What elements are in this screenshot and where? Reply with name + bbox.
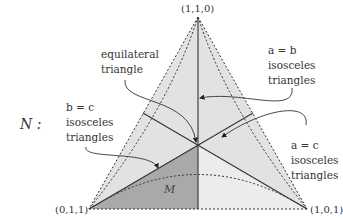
annotation-line: a = b: [268, 43, 316, 58]
set-label-n: N :: [20, 117, 41, 132]
annotation-line: isosceles: [268, 58, 316, 73]
annotation-line: a = c: [291, 138, 339, 153]
annotation-line: b = c: [66, 100, 114, 115]
region-label-m: M: [164, 182, 175, 197]
vertex-label-bottom-right: (1,0,1): [310, 202, 343, 217]
annotation-b-eq-c: b = c isosceles triangles: [66, 100, 114, 145]
annotation-line: isosceles: [291, 153, 339, 168]
annotation-line: equilateral: [101, 47, 159, 62]
annotation-line: triangle: [101, 62, 159, 77]
vertex-label-bottom-left: (0,1,1): [55, 202, 88, 217]
annotation-line: triangles: [268, 73, 316, 88]
annotation-equilateral: equilateral triangle: [101, 47, 159, 77]
annotation-a-eq-b: a = b isosceles triangles: [268, 43, 316, 88]
annotation-line: isosceles: [66, 115, 114, 130]
annotation-line: triangles: [291, 168, 339, 183]
vertex-label-top: (1,1,0): [181, 1, 214, 16]
annotation-line: triangles: [66, 130, 114, 145]
annotation-a-eq-c: a = c isosceles triangles: [291, 138, 339, 183]
